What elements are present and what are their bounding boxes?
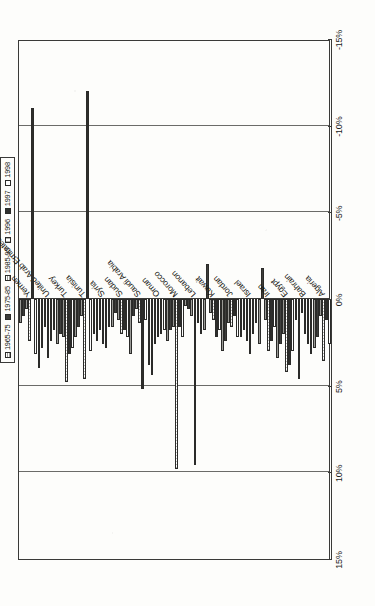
axis-tick-label: -15%	[334, 30, 344, 50]
category-group: United Arab Emirates	[37, 41, 55, 559]
bar-syria-1998	[108, 299, 111, 327]
axis-tick-label: -10%	[334, 117, 344, 137]
bar-jordan-1998	[236, 299, 239, 337]
bar-yemen-1998	[34, 299, 37, 354]
category-group: Iran	[258, 41, 276, 559]
bar-sudan-1998	[126, 299, 129, 337]
bar-kuwait-1998	[218, 299, 221, 330]
category-group: Sudan	[111, 41, 129, 559]
legend-label: 1975-85	[3, 286, 12, 311]
bar-bahrain-1998	[310, 299, 313, 354]
bar-yemen-1996	[28, 299, 31, 341]
category-group: Jordan	[221, 41, 239, 559]
bar-lebanon-1998	[200, 299, 203, 334]
bar-yemen-1997	[31, 108, 34, 299]
legend-label: 1996	[3, 219, 12, 235]
axis-tick-label: 10%	[334, 465, 344, 482]
legend-label: 1965-75	[3, 325, 12, 350]
bar-saudi-arabia-1998	[144, 299, 147, 320]
bar-iran-1965-75	[258, 299, 261, 344]
legend-item-1998: 1998	[3, 162, 12, 186]
legend-item-1997: 1997	[3, 191, 12, 215]
category-group: Tunisia	[74, 41, 92, 559]
bar-iran-1998	[273, 299, 276, 327]
legend-swatch-icon	[5, 180, 11, 186]
legend-swatch-icon	[5, 208, 11, 214]
bar-egypt-1998	[291, 299, 294, 351]
category-group: Israel	[239, 41, 257, 559]
bar-oman-1998	[163, 299, 166, 330]
category-group: Morocco	[166, 41, 184, 559]
legend-item-1965-75: 1965-75	[3, 325, 12, 358]
bar-kuwait-1965-75	[203, 299, 206, 330]
legend-item-1975-85: 1975-85	[3, 286, 12, 319]
legend-swatch-icon	[5, 314, 11, 320]
category-group: Kuwait	[203, 41, 221, 559]
rotated-chart-figure: 1965-751975-851985-95199619971998 Algeri…	[0, 0, 375, 606]
category-group: Oman	[147, 41, 165, 559]
bar-tunisia-1996	[83, 299, 86, 379]
axis-tick-label: 15%	[334, 551, 344, 568]
axis-tick-label: 5%	[334, 380, 344, 393]
category-group: Bahrain	[294, 41, 312, 559]
bar-turkey-1998	[71, 299, 74, 348]
category-group: Syria	[92, 41, 110, 559]
category-group: Saudi Arabia	[129, 41, 147, 559]
axis-line	[331, 40, 332, 560]
bar-israel-1998	[255, 299, 258, 323]
category-group: Lebanon	[184, 41, 202, 559]
legend-swatch-icon	[5, 352, 11, 358]
axis-tick-label: -5%	[334, 206, 344, 221]
legend-label: 1997	[3, 191, 12, 207]
bar-united-arab-emirates-1998	[53, 299, 56, 330]
category-group: Egypt	[276, 41, 294, 559]
legend-label: 1998	[3, 162, 12, 178]
plot-area: AlgeriaBahrainEgyptIranIsraelJordanKuwai…	[18, 40, 330, 560]
bar-tunisia-1998	[89, 299, 92, 351]
category-group: Turkey	[56, 41, 74, 559]
category-group: Yemen	[19, 41, 37, 559]
bar-morocco-1998	[181, 299, 184, 337]
value-axis: 15%10%5%0%-5%-10%-15%	[332, 40, 350, 560]
axis-tick-label: 0%	[334, 294, 344, 307]
bar-lebanon-1996	[194, 299, 197, 465]
bar-tunisia-1997	[86, 91, 89, 299]
category-group: Algeria	[313, 41, 331, 559]
